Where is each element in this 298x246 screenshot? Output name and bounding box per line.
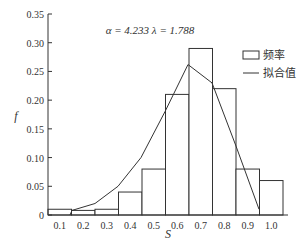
y-axis-label: f: [14, 109, 19, 123]
histogram-bar: [213, 89, 237, 215]
histogram-bar: [236, 169, 260, 215]
y-tick-label: 0.35: [27, 9, 45, 20]
histogram-bar: [260, 181, 284, 215]
y-tick-label: 0: [39, 210, 44, 221]
histogram-bar: [95, 209, 119, 215]
x-tick-label: 0.8: [218, 220, 231, 231]
y-tick-label: 0.10: [27, 153, 45, 164]
histogram-bar: [189, 48, 213, 215]
x-tick-label: 0.6: [171, 220, 184, 231]
legend: 频率 拟合值: [243, 48, 296, 79]
histogram-bar: [48, 209, 72, 215]
y-tick-label: 0.25: [27, 66, 45, 77]
y-tick-label: 0.05: [27, 181, 45, 192]
x-tick-label: 1.0: [265, 220, 278, 231]
legend-bar-swatch: [243, 51, 259, 59]
legend-bar-label: 频率: [263, 48, 285, 61]
parameter-annotation: α = 4.233 λ = 1.788: [106, 24, 195, 36]
x-tick-label: 0.5: [148, 220, 161, 231]
y-tick-label: 0.15: [27, 124, 45, 135]
x-tick-label: 0.2: [77, 220, 90, 231]
x-tick-label: 0.4: [124, 220, 137, 231]
histogram-bar: [142, 169, 166, 215]
x-tick-label: 0.1: [54, 220, 67, 231]
histogram-bar: [72, 210, 96, 215]
histogram-bar: [166, 94, 190, 215]
y-tick-label: 0.20: [27, 95, 45, 106]
x-axis-label: S: [165, 227, 171, 241]
x-tick-label: 0.7: [195, 220, 208, 231]
x-tick-label: 0.9: [242, 220, 255, 231]
x-tick-label: 0.3: [101, 220, 114, 231]
histogram-chart: 00.050.100.150.200.250.300.35 0.10.20.30…: [0, 0, 298, 246]
y-tick-label: 0.30: [27, 38, 45, 49]
histogram-bar: [119, 192, 143, 215]
legend-line-label: 拟合值: [263, 66, 296, 79]
